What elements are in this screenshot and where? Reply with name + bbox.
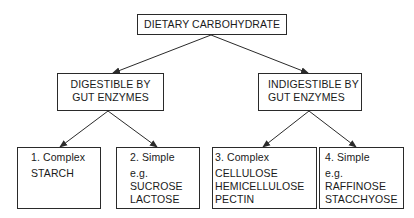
node-label-line: DIGESTIBLE BY xyxy=(58,78,163,91)
leaf-node-simple-digestible: 2. Simple e.g. SUCROSE LACTOSE xyxy=(116,147,200,209)
arrow-indigestible-to-complex xyxy=(263,111,309,147)
leaf-item: SUCROSE xyxy=(130,180,199,193)
leaf-item: RAFFINOSE xyxy=(325,180,403,193)
leaf-item: LACTOSE xyxy=(130,193,199,206)
leaf-heading: 1. Complex xyxy=(31,151,100,164)
node-label-line: GUT ENZYMES xyxy=(268,91,361,104)
leaf-node-simple-indigestible: 4. Simple e.g. RAFFINOSE STACCHYOSE xyxy=(319,147,404,209)
leaf-heading: 4. Simple xyxy=(325,151,403,164)
node-label-line: GUT ENZYMES xyxy=(58,91,163,104)
leaf-item: HEMICELLULOSE xyxy=(215,180,316,193)
root-node-dietary-carbohydrate: DIETARY CARBOHYDRATE xyxy=(137,14,287,35)
arrow-root-to-indigestible xyxy=(211,35,308,73)
leaf-heading: 3. Complex xyxy=(215,151,316,164)
leaf-item: STARCH xyxy=(31,167,100,180)
arrow-indigestible-to-simple xyxy=(309,111,356,147)
node-digestible-by-gut-enzymes: DIGESTIBLE BY GUT ENZYMES xyxy=(57,73,164,111)
leaf-item: e.g. xyxy=(130,167,199,180)
arrow-digestible-to-complex xyxy=(60,111,108,147)
leaf-node-complex-digestible: 1. Complex STARCH xyxy=(17,147,101,209)
leaf-item: e.g. xyxy=(325,167,403,180)
leaf-item: CELLULOSE xyxy=(215,167,316,180)
leaf-item: PECTIN xyxy=(215,193,316,206)
leaf-node-complex-indigestible: 3. Complex CELLULOSE HEMICELLULOSE PECTI… xyxy=(212,147,317,209)
node-indigestible-by-gut-enzymes: INDIGESTIBLE BY GUT ENZYMES xyxy=(258,73,362,111)
leaf-item: STACCHYOSE xyxy=(325,193,403,206)
arrow-root-to-digestible xyxy=(113,35,211,73)
leaf-heading: 2. Simple xyxy=(130,151,199,164)
arrow-digestible-to-simple xyxy=(108,111,157,147)
node-label-line: INDIGESTIBLE BY xyxy=(268,78,361,91)
root-node-label: DIETARY CARBOHYDRATE xyxy=(138,15,286,34)
